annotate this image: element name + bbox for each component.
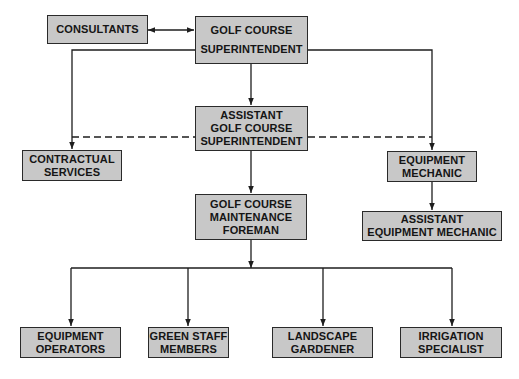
node-golf-course-maintenance-foreman: GOLF COURSE MAINTENANCE FOREMAN bbox=[195, 194, 307, 240]
node-label: EQUIPMENT bbox=[399, 154, 465, 167]
node-label: GOLF COURSE bbox=[211, 21, 293, 40]
node-label: SERVICES bbox=[44, 166, 100, 179]
node-equipment-mechanic: EQUIPMENT MECHANIC bbox=[387, 151, 477, 182]
node-green-staff-members: GREEN STAFF MEMBERS bbox=[148, 327, 229, 358]
node-equipment-operators: EQUIPMENT OPERATORS bbox=[20, 327, 121, 358]
node-label: ASSISTANT bbox=[220, 109, 282, 122]
node-label: LANDSCAPE bbox=[288, 330, 357, 343]
node-label: GOLF COURSE bbox=[211, 122, 293, 135]
node-consultants: CONSULTANTS bbox=[47, 15, 148, 44]
node-golf-course-superintendent: GOLF COURSE SUPERINTENDENT bbox=[195, 16, 308, 64]
node-assistant-golf-course-superintendent: ASSISTANT GOLF COURSE SUPERINTENDENT bbox=[195, 106, 308, 151]
node-label: MAINTENANCE bbox=[210, 211, 292, 224]
node-label: CONTRACTUAL bbox=[29, 153, 114, 166]
node-irrigation-specialist: IRRIGATION SPECIALIST bbox=[400, 327, 502, 358]
node-label: CONSULTANTS bbox=[56, 23, 139, 36]
edge-superintendent-contractual bbox=[72, 50, 195, 149]
node-label: SPECIALIST bbox=[418, 343, 484, 356]
node-landscape-gardener: LANDSCAPE GARDENER bbox=[272, 327, 373, 358]
node-label: SUPERINTENDENT bbox=[200, 135, 302, 148]
node-assistant-equipment-mechanic: ASSISTANT EQUIPMENT MECHANIC bbox=[362, 211, 502, 241]
node-label: GOLF COURSE bbox=[210, 198, 292, 211]
node-label: GARDENER bbox=[291, 343, 355, 356]
node-label: SUPERINTENDENT bbox=[200, 40, 302, 59]
node-label: FOREMAN bbox=[223, 224, 279, 237]
node-label: GREEN STAFF bbox=[150, 330, 228, 343]
node-label: MECHANIC bbox=[402, 167, 462, 180]
node-label: EQUIPMENT bbox=[37, 330, 103, 343]
edge-superintendent-mechanic bbox=[308, 50, 432, 150]
node-label: MEMBERS bbox=[160, 343, 217, 356]
node-label: IRRIGATION bbox=[419, 330, 484, 343]
node-label: OPERATORS bbox=[36, 343, 106, 356]
node-label: EQUIPMENT MECHANIC bbox=[367, 226, 497, 239]
node-label: ASSISTANT bbox=[401, 213, 463, 226]
node-contractual-services: CONTRACTUAL SERVICES bbox=[22, 150, 122, 181]
